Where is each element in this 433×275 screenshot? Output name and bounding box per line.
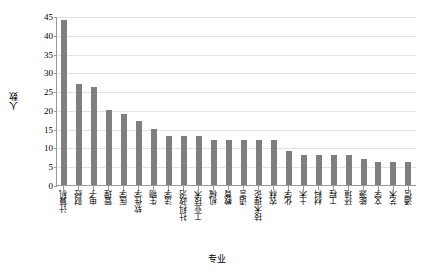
bar: [151, 129, 157, 185]
x-label-slot: 艺术: [386, 190, 401, 248]
x-axis-tick-label: 化学: [285, 190, 293, 205]
bar-column: [251, 17, 266, 185]
bar-column: [207, 17, 222, 185]
x-label-slot: 环境: [341, 190, 356, 248]
x-label-slot: 语言: [236, 190, 251, 248]
x-axis-tick-label: 法学: [165, 190, 173, 205]
y-axis-tick-label: 40: [44, 31, 53, 41]
bar-column: [72, 17, 87, 185]
bar-column: [341, 17, 356, 185]
bar: [61, 20, 67, 185]
bar: [390, 162, 396, 185]
bar: [226, 140, 232, 185]
plot-area: 051015202530354045: [56, 17, 416, 186]
bar-chart: 人数 051015202530354045 计算机财经电子管理医学软件学生物法学…: [0, 0, 433, 275]
bar: [301, 155, 307, 185]
x-label-slot: 医学: [116, 190, 131, 248]
bar-column: [102, 17, 117, 185]
bar: [316, 155, 322, 185]
bar-column: [177, 17, 192, 185]
bar-column: [147, 17, 162, 185]
x-axis-tick-label: 环境: [345, 190, 353, 205]
bar: [361, 159, 367, 185]
y-axis-tick-label: 15: [44, 125, 53, 135]
bar-column: [296, 17, 311, 185]
bar: [91, 87, 97, 185]
x-label-slot: 教育: [221, 190, 236, 248]
x-label-slot: 管理: [101, 190, 116, 248]
x-axis-tick-label: 农林: [270, 190, 278, 205]
x-label-slot: 法学: [161, 190, 176, 248]
bar-column: [57, 17, 72, 185]
bar-column: [311, 17, 326, 185]
x-label-slot: 工业技术: [191, 190, 206, 248]
x-axis-tick-label: 工程: [330, 190, 338, 205]
x-axis-labels: 计算机财经电子管理医学软件学生物法学社科政治工业技术机械教育语言技术理论农林化学…: [56, 190, 416, 248]
x-label-slot: 农林: [266, 190, 281, 248]
bar: [271, 140, 277, 185]
bar: [76, 84, 82, 185]
x-axis-tick-label: 电子: [90, 190, 98, 205]
x-label-slot: 机械: [206, 190, 221, 248]
x-label-slot: 财经: [71, 190, 86, 248]
x-axis-tick-label: 社科政治: [180, 190, 188, 221]
bar-column: [132, 17, 147, 185]
bar-column: [386, 17, 401, 185]
x-axis-tick-label: 软件学: [135, 190, 143, 213]
bar: [331, 155, 337, 185]
bar: [375, 162, 381, 185]
bar-column: [266, 17, 281, 185]
bar: [346, 155, 352, 185]
x-label-slot: 工程: [326, 190, 341, 248]
y-axis-tick-label: 30: [44, 68, 53, 78]
x-label-slot: 社科政治: [176, 190, 191, 248]
y-axis-tick-label: 25: [44, 87, 53, 97]
bar-column: [281, 17, 296, 185]
bar-column: [401, 17, 416, 185]
x-axis-tick-label: 财经: [75, 190, 83, 205]
bar: [405, 162, 411, 185]
x-axis-tick-label: 机械: [210, 190, 218, 205]
x-label-slot: 软件学: [131, 190, 146, 248]
y-axis-tick-label: 10: [44, 143, 53, 153]
x-axis-tick-label: 语言: [240, 190, 248, 205]
bar-series: [57, 17, 416, 185]
bar: [106, 110, 112, 185]
x-axis-tick-label: 技术理论: [255, 190, 263, 221]
y-axis-tick-label: 45: [44, 12, 53, 22]
bar: [286, 151, 292, 185]
bar-column: [236, 17, 251, 185]
x-label-slot: 通信: [401, 190, 416, 248]
y-axis-tick-label: 0: [49, 181, 54, 191]
x-label-slot: 化学: [281, 190, 296, 248]
x-label-slot: 电子: [86, 190, 101, 248]
bar-column: [221, 17, 236, 185]
x-label-slot: 生物: [146, 190, 161, 248]
y-axis-tick-label: 5: [49, 162, 54, 172]
bar: [166, 136, 172, 185]
x-label-slot: 技术理论: [251, 190, 266, 248]
x-axis-tick-label: 生物: [150, 190, 158, 205]
y-axis-tick-label: 20: [44, 106, 53, 116]
x-axis-tick-label: 材料: [315, 190, 323, 205]
bar-column: [326, 17, 341, 185]
bar-column: [162, 17, 177, 185]
x-axis-title: 专业: [0, 252, 433, 265]
x-axis-tick-label: 医学: [120, 190, 128, 205]
bar: [256, 140, 262, 185]
x-axis-tick-label: 工业技术: [195, 190, 203, 221]
x-label-slot: 土木: [296, 190, 311, 248]
x-axis-tick-label: 通信: [405, 190, 413, 205]
x-axis-tick-label: 艺术: [390, 190, 398, 205]
x-label-slot: 计算机: [56, 190, 71, 248]
bar: [211, 140, 217, 185]
x-label-slot: 能源: [356, 190, 371, 248]
bar: [196, 136, 202, 185]
bar: [121, 114, 127, 185]
x-axis-tick-label: 土木: [300, 190, 308, 205]
x-label-slot: 材料: [311, 190, 326, 248]
x-axis-tick-label: 教育: [225, 190, 233, 205]
bar-column: [371, 17, 386, 185]
y-axis-tick-label: 35: [44, 50, 53, 60]
bar-column: [87, 17, 102, 185]
